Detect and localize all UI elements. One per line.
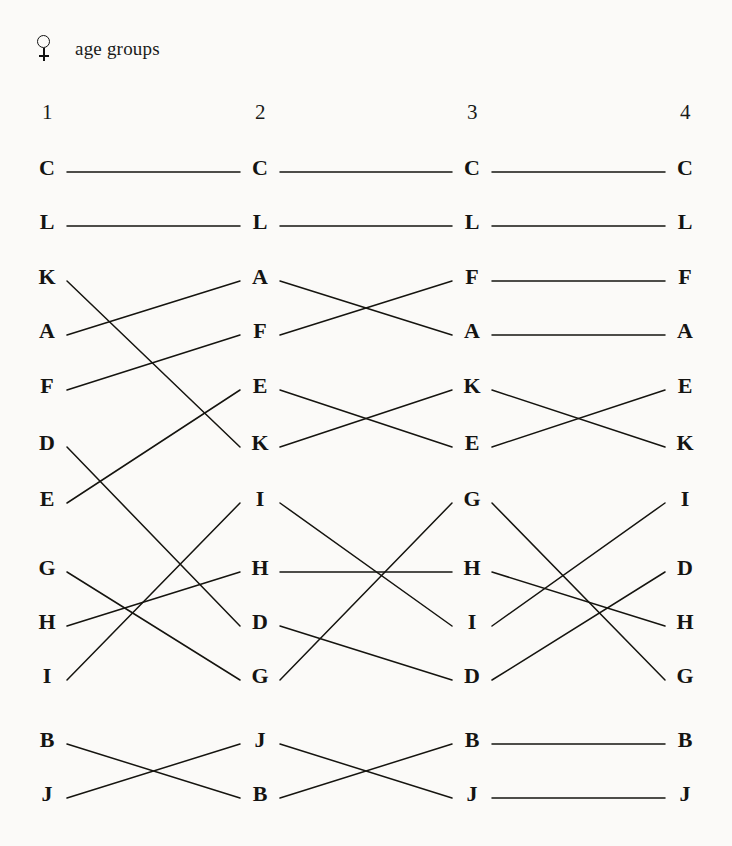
column-header-1: 1 [42,100,66,125]
link-B-col1-col2 [67,744,240,798]
link-I-col1-col2 [67,503,240,680]
node-col4-F: F [674,266,696,288]
link-K-col1-col2 [67,281,240,447]
node-col3-G: G [461,488,483,510]
link-B-col2-col3 [280,744,452,798]
link-A-col2-col3 [280,281,452,335]
node-col2-A: A [249,266,271,288]
node-col2-J: J [249,729,271,751]
node-col4-D: D [674,557,696,579]
link-J-col1-col2 [67,744,240,798]
node-col3-K: K [461,375,483,397]
node-col3-H: H [461,557,483,579]
node-col1-B: B [36,729,58,751]
node-col1-J: J [36,783,58,805]
node-col1-H: H [36,611,58,633]
node-col4-B: B [674,729,696,751]
link-layer [0,0,732,846]
link-E-col2-col3 [280,390,452,447]
node-col2-C: C [249,157,271,179]
node-col4-C: C [674,157,696,179]
node-col2-B: B [249,783,271,805]
column-header-2: 2 [255,100,279,125]
node-col1-L: L [36,211,58,233]
link-H-col1-col2 [67,572,240,626]
node-col3-B: B [461,729,483,751]
node-col3-J: J [461,783,483,805]
link-K-col2-col3 [280,390,452,447]
link-E-col1-col2 [67,390,240,503]
node-col3-C: C [461,157,483,179]
link-K-col3-col4 [492,390,665,447]
node-col4-G: G [674,665,696,687]
link-F-col1-col2 [67,335,240,390]
column-header-3: 3 [467,100,491,125]
link-J-col2-col3 [280,744,452,798]
node-col3-D: D [461,665,483,687]
venus-ring [37,35,50,48]
node-col2-F: F [249,320,271,342]
node-col4-E: E [674,375,696,397]
node-col1-A: A [36,320,58,342]
node-col4-K: K [674,432,696,454]
node-col1-C: C [36,157,58,179]
link-I-col2-col3 [280,503,452,626]
node-col1-K: K [36,266,58,288]
column-header-4: 4 [680,100,704,125]
node-col4-L: L [674,211,696,233]
node-col3-F: F [461,266,483,288]
link-D-col3-col4 [492,572,665,680]
link-I-col3-col4 [492,503,665,626]
link-D-col2-col3 [280,626,452,680]
link-D-col1-col2 [67,447,240,626]
link-G-col3-col4 [492,503,665,680]
link-H-col3-col4 [492,572,665,626]
diagram-header: age groups [36,34,160,64]
node-col1-D: D [36,432,58,454]
node-col1-E: E [36,488,58,510]
node-col1-I: I [36,665,58,687]
link-A-col1-col2 [67,281,240,335]
node-col2-G: G [249,665,271,687]
link-G-col2-col3 [280,503,452,680]
venus-female-icon [36,35,53,63]
node-col3-L: L [461,211,483,233]
link-E-col3-col4 [492,390,665,447]
link-G-col1-col2 [67,572,240,680]
node-col3-E: E [461,432,483,454]
node-col3-A: A [461,320,483,342]
node-col4-H: H [674,611,696,633]
node-col4-J: J [674,783,696,805]
node-col2-L: L [249,211,271,233]
node-col1-G: G [36,557,58,579]
node-col2-K: K [249,432,271,454]
node-col2-I: I [249,488,271,510]
node-col4-I: I [674,488,696,510]
node-col2-E: E [249,375,271,397]
node-col2-D: D [249,611,271,633]
link-F-col2-col3 [280,281,452,335]
node-col4-A: A [674,320,696,342]
rank-diagram-page: age groups 1234 CLKAFDEGHIBJCLAFEKIHDGJB… [0,0,732,846]
node-col3-I: I [461,611,483,633]
node-col2-H: H [249,557,271,579]
node-col1-F: F [36,375,58,397]
header-label: age groups [75,38,160,60]
venus-crossbar [39,55,50,57]
